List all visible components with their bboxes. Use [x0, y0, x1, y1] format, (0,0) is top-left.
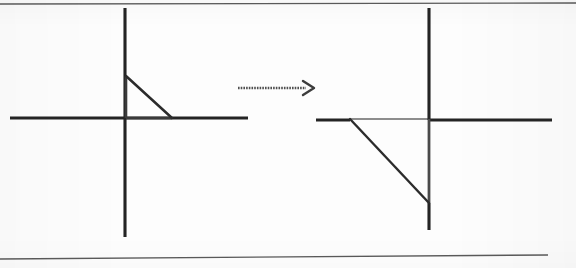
left-triangle-hypotenuse	[126, 76, 172, 118]
transformation-arrow	[238, 81, 314, 95]
arrow-head-icon	[303, 81, 314, 95]
right-triangle-hypotenuse	[350, 119, 429, 203]
diagram-canvas	[0, 0, 576, 268]
right-figure	[316, 8, 552, 230]
left-figure	[10, 8, 248, 237]
geometry-figure	[0, 0, 576, 268]
bottom-rule	[0, 255, 548, 259]
top-rule	[0, 3, 576, 4]
